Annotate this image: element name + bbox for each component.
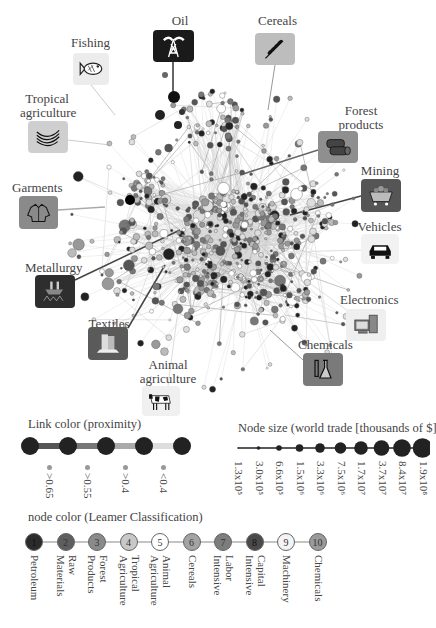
network-node [153,176,156,179]
network-node [216,124,219,127]
network-node [209,251,213,255]
network-node [102,278,114,290]
network-node [273,280,275,282]
network-node [215,197,218,200]
network-node [169,271,171,273]
network-node [236,262,239,265]
size-legend-label: 1.5x10⁶ [295,461,306,495]
network-node [192,205,196,209]
network-node [210,178,214,182]
network-node [306,297,311,302]
network-node [233,105,239,111]
network-node [159,300,164,305]
network-node [245,296,247,298]
network-node [132,314,135,317]
network-node [68,249,77,258]
network-node [256,291,259,294]
label-chemicals: Chemicals [298,338,350,352]
color-legend-label: Labor [224,555,235,581]
network-node [265,223,271,229]
network-link [242,321,282,335]
network-node [269,118,273,122]
network-node [81,293,89,301]
network-node [152,203,155,206]
network-node [307,273,311,277]
network-node [160,181,164,185]
network-node [220,241,226,247]
network-node [200,237,206,243]
network-node [225,133,231,139]
jacket-icon [23,199,54,225]
network-node [175,139,178,142]
network-node [250,173,253,176]
network-node [69,242,72,245]
network-node [282,187,289,194]
color-legend-number: 9 [284,537,289,548]
network-node [227,285,231,289]
network-node [294,231,298,235]
network-node [267,264,274,271]
network-node [225,117,231,123]
network-node [184,282,190,288]
network-node [208,230,211,233]
network-node [187,291,189,293]
size-legend-label: 8.4x10⁷ [397,461,408,495]
link-legend-label: >0.4 [120,473,131,493]
color-legend-label: Chemicals [313,555,324,601]
color-legend-node: 10 [309,533,327,551]
network-node [268,363,272,367]
color-legend-label: Forest [98,555,109,583]
network-node [195,130,199,134]
network-node [240,170,245,175]
network-node [165,144,173,152]
network-node [183,326,189,332]
forest-products-box [318,131,358,163]
network-node [273,96,280,103]
network-node [268,279,272,283]
category-connector [268,65,275,110]
network-node [264,237,267,240]
network-node [146,199,152,205]
network-node [241,259,243,261]
network-node [330,203,334,207]
chemicals-box [303,353,343,386]
network-node [190,223,195,228]
network-node [247,295,251,299]
network-node [197,292,201,296]
network-node [191,259,194,262]
color-legend-label: Tropical [130,555,141,592]
network-node [192,99,198,105]
network-node [116,293,119,296]
network-node [208,261,212,265]
color-legend-label: Agriculture [118,555,129,606]
network-node [178,291,180,293]
cow-icon [146,389,176,413]
size-legend-node [296,444,304,452]
color-legend-number: 7 [221,537,226,548]
network-node [179,109,185,115]
network-node [107,165,111,169]
label-oil: Oil [160,14,200,28]
network-node [193,241,199,247]
network-node [294,297,297,300]
network-node [162,198,168,204]
network-link [301,216,318,297]
network-node [125,195,135,205]
network-node [352,197,355,200]
network-node [280,285,287,292]
network-node [304,289,310,295]
network-node [148,206,155,213]
network-node [245,214,247,216]
metallurgy-box [35,275,75,308]
label-line-1: Animal [136,358,200,372]
car-icon [365,237,395,261]
network-node [237,196,240,199]
color-legend-title: node color (Leamer Classification) [28,510,203,525]
network-node [267,156,273,162]
network-node [182,234,184,236]
network-node [247,284,252,289]
network-node [300,234,305,239]
network-node [297,139,303,145]
network-node [291,208,297,214]
network-node [217,213,221,217]
